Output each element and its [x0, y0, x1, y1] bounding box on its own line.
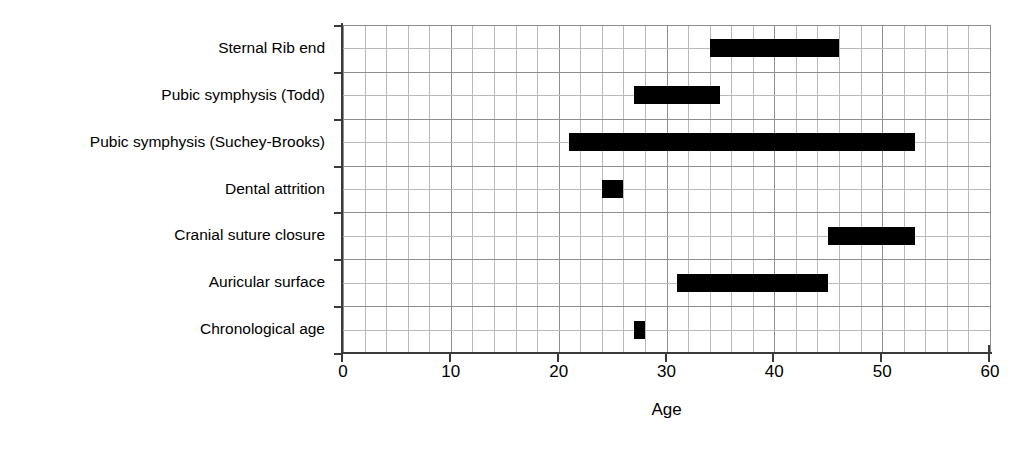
- x-axis-title: Age: [343, 400, 990, 420]
- x-axis-tick: [665, 354, 667, 362]
- x-axis-tick-label: 0: [313, 362, 373, 382]
- gridline-vertical: [990, 25, 991, 353]
- x-axis-tick-cap: [988, 345, 990, 352]
- x-axis-tick-label: 30: [637, 362, 697, 382]
- category-label: Chronological age: [200, 306, 325, 353]
- x-axis-tick-label: 60: [960, 362, 1020, 382]
- age-estimation-range-chart: Sternal Rib endPubic symphysis (Todd)Pub…: [0, 0, 1033, 453]
- category-axis-labels: Sternal Rib endPubic symphysis (Todd)Pub…: [0, 25, 334, 353]
- range-bar: [569, 133, 914, 151]
- x-axis-tick-label: 50: [852, 362, 912, 382]
- category-label: Cranial suture closure: [174, 212, 325, 259]
- bars-layer: [343, 25, 990, 353]
- x-axis-tick: [988, 354, 990, 362]
- range-bar: [602, 180, 624, 198]
- y-axis-tick: [334, 259, 343, 261]
- x-axis-tick-label: 40: [744, 362, 804, 382]
- category-label: Auricular surface: [209, 259, 325, 306]
- y-axis-line: [341, 23, 343, 355]
- y-axis-tick: [334, 166, 343, 168]
- x-axis-tick: [557, 354, 559, 362]
- y-axis-tick: [334, 306, 343, 308]
- range-bar: [634, 86, 720, 104]
- range-bar: [677, 274, 828, 292]
- x-axis-tick: [772, 354, 774, 362]
- x-axis-tick-label: 20: [529, 362, 589, 382]
- x-axis-tick-cap: [341, 345, 343, 352]
- range-bar: [710, 39, 839, 57]
- category-label: Pubic symphysis (Suchey-Brooks): [90, 119, 325, 166]
- y-axis-tick: [334, 25, 343, 27]
- category-label: Dental attrition: [225, 166, 325, 213]
- x-axis-tick: [341, 354, 343, 362]
- y-axis-tick: [334, 119, 343, 121]
- x-axis-tick: [449, 354, 451, 362]
- range-bar: [828, 227, 914, 245]
- range-bar: [634, 321, 645, 339]
- y-axis-tick: [334, 212, 343, 214]
- category-label: Sternal Rib end: [218, 25, 325, 72]
- x-axis-line: [341, 352, 992, 354]
- category-label: Pubic symphysis (Todd): [161, 72, 325, 119]
- x-axis-tick-label: 10: [421, 362, 481, 382]
- x-axis-tick: [880, 354, 882, 362]
- plot-area: [343, 25, 990, 353]
- y-axis-tick: [334, 72, 343, 74]
